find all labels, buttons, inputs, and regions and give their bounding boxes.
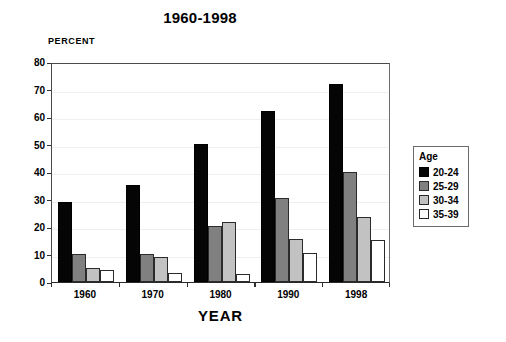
plot-area <box>51 63 390 283</box>
y-axis-tick-mark <box>47 173 51 174</box>
legend-rows: 20-2425-2930-3435-39 <box>419 165 464 221</box>
bar <box>58 202 72 282</box>
legend-title: Age <box>419 151 464 163</box>
bar <box>303 253 317 282</box>
bar <box>289 239 303 282</box>
bar <box>236 274 250 282</box>
y-axis-tick-mark <box>47 255 51 256</box>
y-axis-tick-mark <box>47 90 51 91</box>
legend-item-label: 35-39 <box>433 209 459 220</box>
x-axis-tick-label: 1998 <box>321 289 391 300</box>
x-axis-tick-mark <box>322 283 323 287</box>
bar <box>371 240 385 282</box>
y-axis-tick-mark <box>47 200 51 201</box>
y-axis-tick-label: 60 <box>15 113 45 123</box>
bar <box>86 268 100 282</box>
y-axis-tick-mark <box>47 118 51 119</box>
x-axis-tick-mark <box>254 283 255 287</box>
y-axis-tick-mark <box>47 228 51 229</box>
x-axis-title: YEAR <box>51 307 390 324</box>
bar <box>275 198 289 282</box>
y-axis-tick-mark <box>47 145 51 146</box>
x-axis-tick-mark <box>187 283 188 287</box>
bar <box>208 226 222 282</box>
bar <box>154 257 168 282</box>
bar <box>343 172 357 282</box>
x-axis-tick-mark <box>119 283 120 287</box>
bar <box>222 222 236 283</box>
bar <box>126 185 140 282</box>
bar <box>100 270 114 282</box>
y-axis-tick-label: 70 <box>15 86 45 96</box>
legend-item-label: 25-29 <box>433 181 459 192</box>
legend-item: 20-24 <box>419 165 464 179</box>
legend: Age 20-2425-2930-3435-39 <box>413 146 469 227</box>
y-axis-title: PERCENT <box>48 36 95 46</box>
y-axis-tick-label: 80 <box>15 58 45 68</box>
bar <box>261 111 275 282</box>
legend-item: 30-34 <box>419 193 464 207</box>
legend-swatch <box>419 181 429 191</box>
chart-title: 1960-1998 <box>0 9 400 26</box>
bar <box>140 254 154 282</box>
bar <box>72 254 86 282</box>
y-axis-tick-mark <box>47 63 51 64</box>
y-axis-tick-label: 30 <box>15 196 45 206</box>
bar <box>194 144 208 282</box>
legend-swatch <box>419 209 429 219</box>
legend-item: 25-29 <box>419 179 464 193</box>
bar-chart: 1960-1998 PERCENT 01020304050607080 1960… <box>0 0 506 342</box>
x-axis-tick-label: 1960 <box>50 289 120 300</box>
x-axis-tick-label: 1990 <box>253 289 323 300</box>
bar <box>168 273 182 282</box>
legend-item: 35-39 <box>419 207 464 221</box>
legend-swatch <box>419 195 429 205</box>
x-axis-tick-mark <box>389 283 390 287</box>
legend-swatch <box>419 167 429 177</box>
y-axis-tick-label: 50 <box>15 141 45 151</box>
x-axis-tick-label: 1980 <box>186 289 256 300</box>
y-axis-tick-label: 10 <box>15 251 45 261</box>
legend-item-label: 30-34 <box>433 195 459 206</box>
y-axis-tick-label: 0 <box>15 278 45 288</box>
x-axis-tick-label: 1970 <box>118 289 188 300</box>
bar <box>357 217 371 282</box>
y-axis-tick-label: 20 <box>15 223 45 233</box>
x-axis-tick-mark <box>51 283 52 287</box>
y-axis-tick-label: 40 <box>15 168 45 178</box>
legend-item-label: 20-24 <box>433 167 459 178</box>
bar <box>329 84 343 282</box>
